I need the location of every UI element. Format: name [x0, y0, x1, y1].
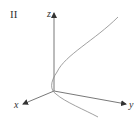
x-axis — [23, 91, 54, 104]
y-axis — [54, 91, 126, 104]
y-axis-label: y — [128, 99, 134, 110]
3d-axes-diagram: z x y — [0, 0, 140, 121]
space-curve — [52, 17, 118, 117]
x-axis-label: x — [13, 99, 19, 110]
z-axis-label: z — [46, 8, 51, 19]
